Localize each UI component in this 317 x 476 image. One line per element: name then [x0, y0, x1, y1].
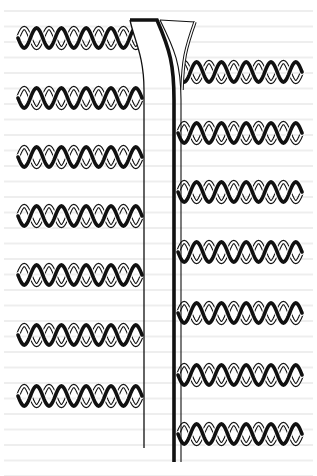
- dna-double-helix: [178, 424, 302, 444]
- dna-double-helix: [18, 28, 142, 48]
- dna-double-helix: [178, 123, 302, 143]
- dna-double-helix: [18, 206, 142, 226]
- left-helix-group: [18, 28, 142, 406]
- dna-double-helix: [18, 325, 142, 345]
- dna-double-helix: [178, 182, 302, 202]
- dna-replication-diagram: [0, 0, 317, 476]
- right-template-strand: [160, 20, 181, 462]
- dna-double-helix: [18, 386, 142, 406]
